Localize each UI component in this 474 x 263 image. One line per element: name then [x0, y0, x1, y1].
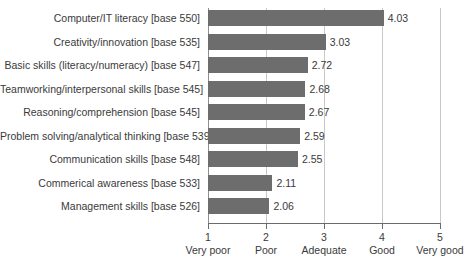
tick-caption-5: Very good	[395, 244, 474, 257]
tick-number-3: 3	[304, 231, 344, 243]
bar-row: 2.72	[208, 57, 440, 73]
tick-mark-2	[266, 223, 267, 229]
bar-row: 3.03	[208, 34, 440, 50]
tick-number-4: 4	[362, 231, 402, 243]
bar-value-label: 2.55	[302, 152, 322, 166]
tick-number-5: 5	[420, 231, 460, 243]
bar-value-label: 3.03	[330, 35, 350, 49]
bar	[208, 198, 269, 214]
tick-number-1: 1	[188, 231, 228, 243]
bar-row: 2.06	[208, 198, 440, 214]
category-label: Computer/IT literacy [base 550]	[0, 10, 203, 26]
bar	[208, 57, 308, 73]
bar	[208, 10, 384, 26]
category-axis-labels: Computer/IT literacy [base 550]Creativit…	[0, 8, 203, 223]
bar-row: 4.03	[208, 10, 440, 26]
tick-mark-3	[324, 223, 325, 229]
bar	[208, 175, 272, 191]
bar-value-label: 2.68	[309, 82, 329, 96]
category-label: Creativity/innovation [base 535]	[0, 34, 203, 50]
gridline-5	[440, 8, 441, 223]
bar	[208, 104, 305, 120]
bar-row: 2.59	[208, 128, 440, 144]
bar-row: 2.67	[208, 104, 440, 120]
bar-value-label: 2.59	[304, 129, 324, 143]
bar-row: 2.11	[208, 175, 440, 191]
category-label: Commerical awareness [base 533]	[0, 175, 203, 191]
plot-area: 4.033.032.722.682.672.592.552.112.06	[208, 8, 440, 223]
bar-value-label: 2.06	[273, 199, 293, 213]
tick-number-2: 2	[246, 231, 286, 243]
bars-layer: 4.033.032.722.682.672.592.552.112.06	[208, 8, 440, 223]
bar-value-label: 4.03	[388, 11, 408, 25]
tick-mark-1	[208, 223, 209, 229]
bar-row: 2.55	[208, 151, 440, 167]
bar-row: 2.68	[208, 81, 440, 97]
tick-mark-5	[440, 223, 441, 229]
bar-chart: Computer/IT literacy [base 550]Creativit…	[0, 0, 474, 263]
category-label: Reasoning/comprehension [base 545]	[0, 104, 203, 120]
bar-value-label: 2.72	[312, 58, 332, 72]
bar	[208, 128, 300, 144]
category-label: Problem solving/analytical thinking [bas…	[0, 128, 203, 144]
category-label: Management skills [base 526]	[0, 198, 203, 214]
tick-mark-4	[382, 223, 383, 229]
bar	[208, 34, 326, 50]
category-label: Basic skills (literacy/numeracy) [base 5…	[0, 57, 203, 73]
category-label: Communication skills [base 548]	[0, 151, 203, 167]
bar-value-label: 2.11	[276, 176, 296, 190]
bar	[208, 81, 305, 97]
category-label: Teamworking/interpersonal skills [base 5…	[0, 81, 203, 97]
bar-value-label: 2.67	[309, 105, 329, 119]
bar	[208, 151, 298, 167]
